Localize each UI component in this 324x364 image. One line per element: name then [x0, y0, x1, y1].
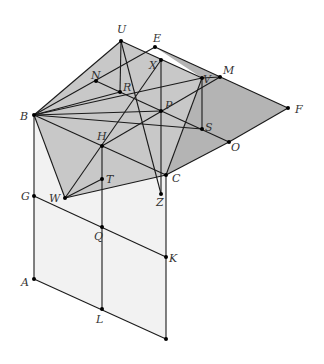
label-e: E	[152, 32, 161, 45]
point-q	[100, 225, 104, 229]
point-p	[159, 109, 163, 113]
point-f	[286, 106, 290, 110]
point-r	[118, 90, 122, 94]
label-k: K	[168, 252, 178, 265]
label-z: Z	[155, 196, 164, 209]
label-g: G	[21, 190, 30, 203]
label-l: L	[95, 313, 103, 326]
point-b	[32, 113, 36, 117]
point-w	[63, 196, 67, 200]
label-x: X	[148, 59, 158, 72]
label-q: Q	[94, 230, 103, 243]
label-c: C	[172, 172, 181, 185]
geometry-diagram: UEXNRVMBPFSOHCTWZGQKAL	[0, 0, 324, 364]
label-n: N	[90, 69, 101, 82]
label-o: O	[231, 141, 240, 154]
label-r: R	[122, 81, 131, 94]
point-l	[100, 307, 104, 311]
label-h: H	[96, 130, 107, 143]
label-m: M	[222, 64, 235, 77]
point-h	[100, 144, 104, 148]
label-f: F	[294, 103, 303, 116]
point-u	[119, 39, 123, 43]
label-v: V	[203, 73, 212, 86]
point-unlabeled	[164, 337, 168, 341]
label-u: U	[117, 23, 127, 36]
point-m	[218, 75, 222, 79]
point-e	[153, 45, 157, 49]
point-c	[164, 173, 168, 177]
label-a: A	[20, 276, 29, 289]
point-t	[100, 177, 104, 181]
label-b: B	[19, 110, 28, 123]
point-g	[32, 194, 36, 198]
label-p: P	[164, 99, 173, 112]
point-x	[159, 58, 163, 62]
label-s: S	[205, 121, 213, 134]
point-a	[32, 277, 36, 281]
label-w: W	[49, 192, 62, 205]
point-s	[200, 127, 204, 131]
point-k	[164, 255, 168, 259]
